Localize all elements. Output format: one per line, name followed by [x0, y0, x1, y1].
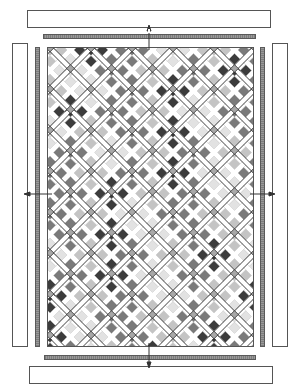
arrow-left-icon	[24, 192, 30, 196]
arrow-right-icon	[269, 192, 275, 196]
arrow-down-icon	[147, 362, 151, 368]
assembly-arrows	[0, 0, 290, 388]
